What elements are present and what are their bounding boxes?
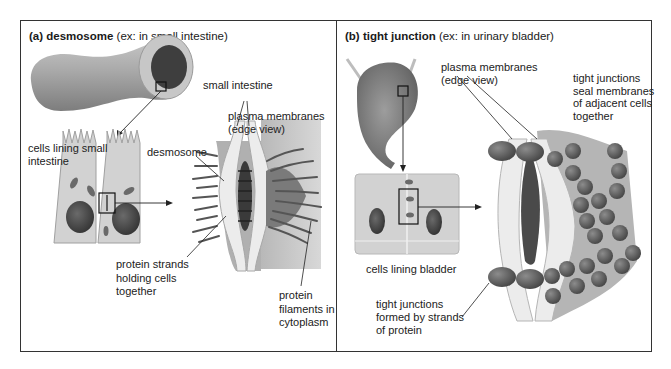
label-cells-lining-bladder: cells lining bladder bbox=[366, 263, 457, 276]
bladder-icon bbox=[347, 59, 418, 169]
label-plasma-membranes-b: plasma membranes(edge view) bbox=[441, 61, 538, 86]
label-desmosome: desmosome bbox=[147, 146, 207, 159]
label-tight-junctions-seal: tight junctionsseal membranesof adjacent… bbox=[573, 72, 654, 122]
panel-tight-junction: (b) tight junction (ex: in urinary bladd… bbox=[336, 20, 652, 352]
small-intestine-icon bbox=[31, 35, 193, 111]
label-small-intestine: small intestine bbox=[203, 79, 273, 92]
tight-junction-3d-icon bbox=[488, 130, 641, 321]
panel-desmosome: (a) desmosome (ex: in small intestine) bbox=[20, 20, 337, 352]
desmosome-3d-icon bbox=[193, 119, 321, 271]
label-protein-strands: protein strandsholding cellstogether bbox=[116, 258, 189, 299]
label-tight-junctions-formed: tight junctionsformed by strandsof prote… bbox=[376, 298, 464, 337]
label-plasma-membranes-a: plasma membranes(edge view) bbox=[228, 110, 325, 135]
bladder-cells-icon bbox=[355, 174, 459, 254]
label-protein-filaments: proteinfilaments incytoplasm bbox=[279, 289, 335, 330]
label-cells-lining-intestine: cells lining smallintestine bbox=[28, 142, 107, 167]
